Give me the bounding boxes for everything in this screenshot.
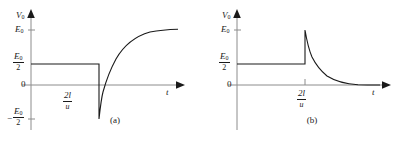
waveform-curve-a bbox=[31, 29, 178, 119]
y-tick-label-E0-over-2-a: E0 2 bbox=[13, 52, 24, 72]
x-axis-label-b: t bbox=[372, 88, 375, 97]
x-axis-label-a: t bbox=[166, 88, 169, 97]
y-tick-label-zero-a: 0 bbox=[21, 80, 26, 89]
waveform-curve-b bbox=[237, 30, 380, 85]
y-tick-minus-sign-a: − bbox=[7, 113, 12, 123]
x-axis-arrow-a bbox=[176, 81, 185, 89]
y-tick-label-E0-a: E0 bbox=[15, 25, 24, 34]
panel-caption-b: (b) bbox=[292, 115, 332, 125]
x-axis-arrow-b bbox=[382, 81, 391, 89]
y-tick-label-E0-b: E0 bbox=[221, 25, 230, 34]
y-axis-label-b: V0 bbox=[222, 11, 231, 20]
panel-caption-a: (a) bbox=[95, 115, 135, 125]
y-axis-arrow-a bbox=[27, 9, 35, 18]
y-axis-arrow-b bbox=[233, 9, 241, 18]
x-tick-label-two-l-over-u-b: 2l u bbox=[297, 89, 306, 109]
y-tick-label-E0-over-2-b: E0 2 bbox=[219, 52, 230, 72]
x-tick-label-two-l-over-u-a: 2l u bbox=[63, 91, 72, 111]
y-tick-label-neg-E0-over-2-a: E0 2 bbox=[13, 107, 24, 127]
y-axis-label-a: V0 bbox=[16, 11, 25, 20]
chart-panel-b: V0 E0 E0 2 0 2l u t (b) bbox=[206, 0, 411, 142]
y-tick-label-zero-b: 0 bbox=[227, 80, 232, 89]
chart-panel-a: V0 E0 E0 2 0 − E0 2 2l u t bbox=[0, 0, 205, 142]
figure-two-panel-transient-response: V0 E0 E0 2 0 − E0 2 2l u t bbox=[0, 0, 411, 142]
